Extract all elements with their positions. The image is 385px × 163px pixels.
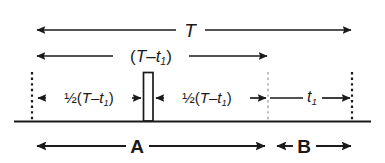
timing-diagram-figure: T (T–t1) ½(T–t1) ½(T–t1) t1 A B bbox=[0, 0, 385, 163]
label-pulse-interval-t1: t1 bbox=[307, 89, 317, 105]
label-half-left: ½(T–t1) bbox=[64, 90, 113, 105]
label-segment-b: B bbox=[297, 137, 311, 156]
label-period-T: T bbox=[184, 21, 196, 40]
label-period-T-text: T bbox=[184, 20, 196, 41]
label-segment-a: A bbox=[130, 137, 144, 156]
label-remainder: (T–t1) bbox=[130, 48, 172, 65]
pulse-rectangle bbox=[144, 73, 154, 122]
label-half-right: ½(T–t1) bbox=[182, 90, 231, 105]
